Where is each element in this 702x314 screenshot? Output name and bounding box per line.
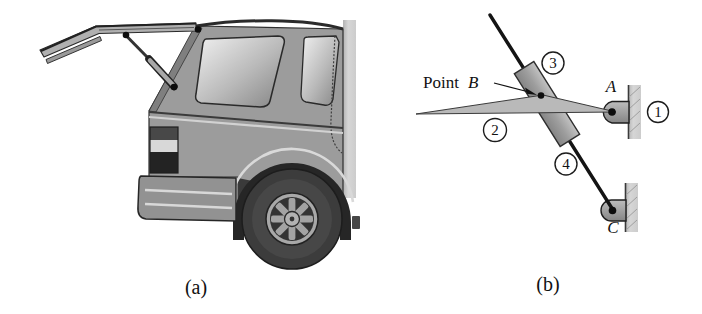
car-bumper: [138, 176, 236, 221]
hub-cap-dot: [290, 217, 295, 222]
caption-a: (a): [185, 276, 207, 299]
car-liftgate-open: [40, 23, 196, 64]
liftgate-hinge-pivot: [195, 26, 202, 33]
link-number-2: 2: [484, 119, 507, 142]
link-number-3: 3: [542, 52, 564, 74]
ground-strip-a: [628, 85, 641, 139]
strut-upper-pivot: [123, 32, 130, 39]
point-b-label-letter: B: [468, 73, 479, 92]
spoke: [298, 216, 313, 223]
number-text: 3: [549, 55, 557, 71]
car-front-sill-fragment: [352, 216, 360, 229]
caption-b: (b): [536, 273, 559, 296]
link-2-liftgate-arm: [416, 95, 616, 114]
figure-liftgate-mechanism: (a): [0, 0, 702, 314]
link-number-4: 4: [555, 153, 577, 175]
taillight-top-band: [150, 127, 178, 140]
car-wheel: [242, 169, 342, 269]
pin-a-label: A: [605, 77, 617, 96]
car-rear-side-window: [196, 36, 285, 107]
link-number-1: 1: [648, 102, 669, 123]
panel-a-car-illustration: (a): [40, 20, 360, 299]
taillight-dark-band: [150, 152, 178, 173]
pin-a: [608, 108, 616, 116]
ground-strip-c: [625, 183, 638, 232]
taillight-light-band: [150, 140, 178, 152]
pin-c-label: C: [607, 218, 619, 237]
figure-canvas: (a): [0, 0, 702, 314]
point-b-label-prefix: Point: [423, 73, 459, 92]
spoke: [289, 225, 296, 240]
pin-c: [609, 207, 617, 215]
panel-b-linkage-schematic: Point B A C 1 2 3 4 (b): [416, 15, 669, 296]
bumper-body: [138, 176, 236, 221]
number-text: 4: [562, 156, 570, 172]
car-taillight: [150, 127, 178, 173]
car-cropped-edge-strip: [343, 20, 356, 198]
spoke: [289, 198, 296, 213]
number-text: 1: [654, 104, 662, 120]
number-text: 2: [491, 122, 499, 138]
spoke: [271, 216, 286, 223]
strut-lower-pivot: [171, 84, 178, 91]
pin-b: [538, 92, 545, 99]
point-b-label: Point B: [423, 73, 479, 92]
